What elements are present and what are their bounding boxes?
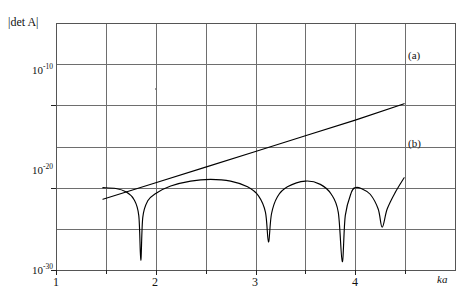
y-axis-label: |det A| <box>8 16 38 28</box>
x-tick-label-3: 3 <box>252 276 258 288</box>
curve-a-annotation: (a) <box>408 50 420 61</box>
y-tick-label-1: 10-10 <box>32 65 53 76</box>
plot-area <box>0 0 474 299</box>
curve-b-annotation: (b) <box>408 138 421 149</box>
data-series-layer <box>103 104 404 262</box>
y-tick-label-3: 10-30 <box>32 265 53 276</box>
y-axis-label-text: |det A| <box>8 15 38 29</box>
curve-(b) <box>103 178 404 262</box>
x-tick-label-4: 4 <box>352 276 358 288</box>
x-axis-label: ka <box>437 274 447 285</box>
grid-lines <box>56 23 456 271</box>
curve-(a) <box>103 104 404 200</box>
y-tick-label-2: 10-20 <box>32 165 53 176</box>
x-tick-label-2: 2 <box>152 276 158 288</box>
scan-artifact-speck <box>155 88 156 90</box>
figure-container: |det A| 10-10 10-20 10-30 1 2 3 4 ka (a)… <box>0 0 474 299</box>
x-tick-label-1: 1 <box>53 276 59 288</box>
